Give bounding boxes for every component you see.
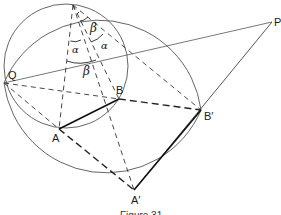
geometry-figure: α α β β P Q B B′ A A′ Figure 31 [0, 0, 281, 215]
dashed-B-B-prime [119, 99, 201, 110]
dashed-T-A-prime [73, 5, 134, 190]
point-label-B-prime: B′ [204, 110, 213, 122]
segment-A-prime-B-prime [134, 110, 201, 190]
point-label-P: P [274, 16, 281, 28]
point-label-A-prime: A′ [131, 194, 140, 206]
alpha-left-label: α [72, 44, 79, 55]
figure-caption: Figure 31 [120, 210, 163, 215]
dashed-T-A [59, 5, 73, 129]
point-label-B: B [116, 84, 123, 96]
point-label-A: A [52, 132, 60, 144]
angle-arc-alpha-left [71, 40, 82, 42]
point-label-Q: Q [8, 69, 17, 81]
line-Q-P [4, 22, 272, 83]
dashed-A-A-prime [59, 129, 134, 190]
small-circle [4, 4, 128, 128]
beta-top-label: β [89, 21, 97, 35]
segment-A-B [59, 99, 119, 129]
beta-bottom-label: β [82, 64, 90, 78]
alpha-right-label: α [101, 40, 108, 51]
dashed-T-B [73, 5, 119, 99]
